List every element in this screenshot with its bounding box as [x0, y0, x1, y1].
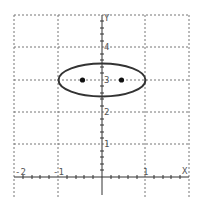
- y-tick-label-3: 3: [104, 76, 109, 85]
- y-tick-label-2: 2: [104, 108, 109, 117]
- chart-plot-area: [0, 0, 200, 204]
- focus-point-left: [80, 77, 85, 82]
- y-axis-label: Y: [104, 14, 109, 23]
- focus-point-right: [119, 77, 124, 82]
- x-axis-label: X: [182, 167, 187, 176]
- x-tick-label-neg1: -1: [53, 168, 64, 177]
- x-tick-label-neg2: -2: [15, 168, 26, 177]
- x-tick-label-1: 1: [143, 168, 148, 177]
- y-tick-label-1: 1: [104, 140, 109, 149]
- y-tick-label-4: 4: [104, 43, 109, 52]
- axes: [14, 15, 189, 195]
